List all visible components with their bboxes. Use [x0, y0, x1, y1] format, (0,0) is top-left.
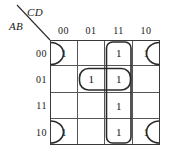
row-axis-label: AB: [9, 20, 23, 32]
cell-value-r3c1: [78, 119, 106, 145]
row-header-3: 10: [26, 127, 47, 138]
cell-value-r2c2: 1: [105, 93, 133, 119]
cell-value-r0c2: 1: [105, 40, 133, 66]
cell-value-r0c1: [78, 40, 106, 66]
cell-value-r3c3: 1: [133, 119, 161, 145]
cell-value-r1c0: [50, 66, 78, 92]
column-axis-label: CD: [27, 6, 43, 18]
kmap-grid: 1 1 1 1 1 1 1 1 1: [50, 40, 160, 145]
cell-value-r1c2: 1: [105, 66, 133, 92]
cell-value-r0c3: 1: [133, 40, 161, 66]
cell-value-r2c3: [133, 93, 161, 119]
cell-value-r0c0: 1: [50, 40, 78, 66]
cell-value-r2c0: [50, 93, 78, 119]
column-header-1: 01: [78, 25, 105, 36]
row-header-0: 00: [26, 48, 47, 59]
karnaugh-map: CD AB 00 01 11 10 00 01 11 10 1 1 1 1 1: [0, 0, 170, 160]
row-header-2: 11: [26, 100, 47, 111]
cell-value-r1c1: 1: [78, 66, 106, 92]
column-header-2: 11: [105, 25, 132, 36]
column-header-3: 10: [133, 25, 160, 36]
row-header-1: 01: [26, 74, 47, 85]
cell-value-r3c0: 1: [50, 119, 78, 145]
cell-value-r3c2: 1: [105, 119, 133, 145]
cell-value-r2c1: [78, 93, 106, 119]
column-header-0: 00: [50, 25, 77, 36]
cell-value-r1c3: [133, 66, 161, 92]
